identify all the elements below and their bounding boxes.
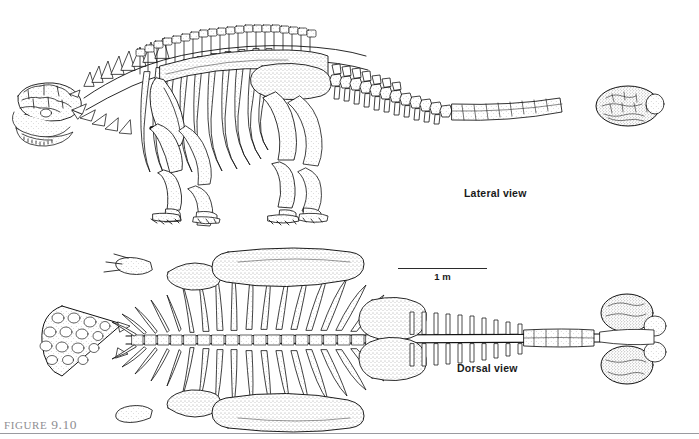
lateral-forelimb-far — [179, 126, 220, 226]
dorsal-tail-club — [600, 294, 666, 384]
lateral-view-label: Lateral view — [464, 187, 527, 199]
lateral-skull — [12, 83, 82, 146]
figure-caption-number: 9.10 — [51, 417, 77, 432]
figure-caption-prefix: FIGURE — [4, 419, 47, 431]
scale-bar: 1 m — [398, 268, 487, 282]
figure-caption: FIGURE 9.10 — [4, 417, 77, 433]
scale-bar-line — [398, 268, 487, 269]
caption-rule — [0, 433, 699, 434]
lateral-hindlimb-near — [263, 92, 299, 225]
skeleton-plate — [0, 0, 699, 439]
lateral-tail-club — [596, 86, 664, 126]
dorsal-caudal-processes — [410, 312, 522, 366]
dorsal-tail-handle — [524, 329, 594, 347]
lateral-tail-handle — [452, 98, 562, 120]
lateral-pelvis — [250, 63, 331, 99]
dorsal-skull — [40, 306, 130, 376]
scale-bar-label: 1 m — [398, 271, 487, 282]
dorsal-skeleton — [40, 248, 666, 432]
lateral-skeleton — [12, 25, 664, 226]
lateral-caudal-vertebrae — [330, 64, 452, 124]
dorsal-view-label: Dorsal view — [457, 362, 518, 374]
figure-illustration: Lateral view Dorsal view 1 m FIGURE 9.10 — [0, 0, 699, 439]
